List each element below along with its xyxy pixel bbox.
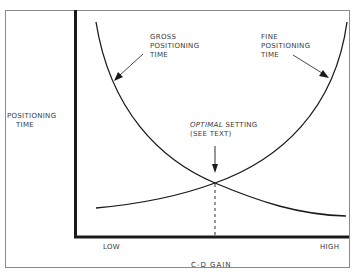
x-tick-high: HIGH xyxy=(320,243,339,252)
optimal-setting: SETTING xyxy=(223,121,258,129)
gross-label-line3: TIME xyxy=(150,51,199,60)
fine-label-line3: TIME xyxy=(261,51,310,60)
optimal-label-line1: OPTIMAL SETTING xyxy=(190,121,258,130)
optimal-label-line2: (SEE TEXT) xyxy=(190,130,258,139)
gross-label: GROSS POSITIONING TIME xyxy=(150,33,199,60)
y-axis-label-line1: POSITIONING xyxy=(7,112,56,121)
y-axis-label-line2: TIME xyxy=(7,121,56,130)
gross-label-line2: POSITIONING xyxy=(150,42,199,51)
gross-arrow-icon xyxy=(114,54,143,81)
x-axis-label: C-D GAIN xyxy=(191,261,232,270)
fine-label-line2: POSITIONING xyxy=(261,42,310,51)
gross-label-line1: GROSS xyxy=(150,33,199,42)
fine-label: FINE POSITIONING TIME xyxy=(261,33,310,60)
optimal-italic: OPTIMAL xyxy=(190,121,223,129)
x-tick-low: LOW xyxy=(103,243,120,252)
optimal-label: OPTIMAL SETTING (SEE TEXT) xyxy=(190,121,258,139)
optimal-arrow-icon xyxy=(212,146,218,173)
fine-label-line1: FINE xyxy=(261,33,310,42)
y-axis-label: POSITIONING TIME xyxy=(7,112,56,130)
